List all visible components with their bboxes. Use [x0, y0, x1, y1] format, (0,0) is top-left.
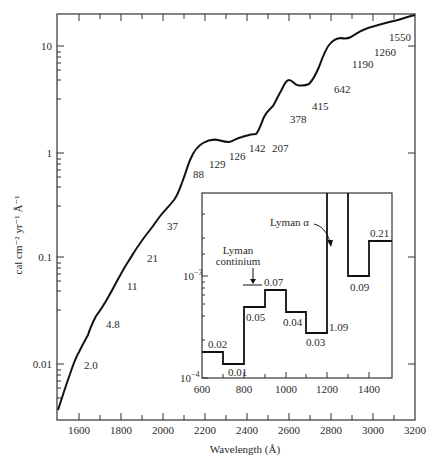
inset-bin-label: 0.05	[246, 311, 266, 323]
x-tick-label: 2400	[236, 424, 259, 436]
curve-value-label: 642	[334, 83, 351, 95]
curve-value-label: 21	[147, 252, 158, 264]
curve-value-label: 415	[312, 100, 329, 112]
inset-bin-label: 0.03	[306, 336, 326, 348]
lyman-alpha-label: Lyman α	[270, 216, 309, 228]
y-tick-label: 10	[41, 40, 53, 52]
y-tick-label: 0.1	[38, 251, 52, 263]
x-tick-label: 3200	[404, 424, 427, 436]
y-axis-title: cal cm⁻² yr⁻¹ Å⁻¹	[12, 196, 24, 275]
y-tick-label: 0.01	[33, 358, 52, 370]
inset-x-tick-label: 800	[236, 383, 253, 395]
inset-y-tick-label: 10−4	[180, 370, 200, 384]
x-tick-label: 3000	[362, 424, 385, 436]
chart-canvas: 10 1 0.1 0.01 1600 1800 2000 2200 2400 2…	[0, 0, 440, 466]
curve-value-label: 126	[229, 150, 246, 162]
x-tick-label: 2800	[320, 424, 343, 436]
curve-value-label: 378	[290, 113, 307, 125]
x-axis-title: Wavelength (Å)	[210, 443, 281, 456]
curve-value-label: 1190	[352, 58, 374, 70]
inset-bin-label: 0.01	[228, 366, 247, 378]
lyman-continuum-label: continium	[216, 255, 261, 267]
inset-bin-label: 0.09	[350, 281, 370, 293]
x-tick-label: 2600	[278, 424, 301, 436]
curve-value-label: 37	[167, 220, 179, 232]
curve-value-label: 11	[127, 280, 138, 292]
curve-value-label: 88	[193, 168, 205, 180]
curve-value-label: 142	[249, 142, 266, 154]
curve-value-label: 129	[209, 158, 226, 170]
curve-value-label: 207	[272, 142, 289, 154]
inset-y-tick-label: 10−3	[183, 268, 203, 282]
curve-value-label: 1260	[374, 46, 397, 58]
inset-bin-label: 0.07	[264, 276, 284, 288]
x-tick-label: 1800	[110, 424, 133, 436]
curve-value-label: 2.0	[84, 359, 98, 371]
inset-bin-label: 0.02	[208, 338, 227, 350]
curve-value-label: 1550	[389, 31, 412, 43]
inset-chart: 10−3 10−4 600 800 1000 1200 1400 0.02 0.…	[180, 193, 392, 395]
inset-bin-label: 0.21	[370, 227, 389, 239]
x-tick-label: 1600	[68, 424, 91, 436]
inset-bin-label: 1.09	[329, 321, 349, 333]
inset-x-tick-label: 1000	[275, 383, 298, 395]
inset-x-tick-label: 1200	[316, 383, 339, 395]
inset-x-tick-label: 600	[194, 383, 211, 395]
x-tick-label: 2200	[194, 424, 217, 436]
inset-bin-label: 0.04	[283, 316, 303, 328]
inset-x-tick-label: 1400	[358, 383, 381, 395]
curve-value-label: 4.8	[106, 318, 120, 330]
x-tick-label: 2000	[152, 424, 175, 436]
y-tick-label: 1	[47, 147, 53, 159]
